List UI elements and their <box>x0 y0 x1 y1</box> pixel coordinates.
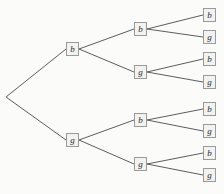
tree-edge-g-to-gg <box>79 140 134 164</box>
root-vertex <box>6 97 7 98</box>
tree-node-label: b <box>207 148 212 157</box>
tree-edge-gg-to-ggg <box>147 164 203 175</box>
tree-edge-gg-to-ggb <box>147 153 203 164</box>
tree-node-bb[interactable]: b <box>134 22 147 36</box>
tree-node-label: b <box>207 10 212 19</box>
tree-edge-bb-to-bbb <box>147 15 203 29</box>
tree-edge-gb-to-gbb <box>147 109 203 120</box>
tree-edge-root-to-g <box>6 97 66 140</box>
tree-edge-g-to-gb <box>79 120 134 140</box>
tree-edge-gb-to-gbg <box>147 120 203 131</box>
tree-node-g[interactable]: g <box>66 133 79 147</box>
tree-node-bbb[interactable]: b <box>203 8 216 22</box>
tree-node-label: g <box>70 135 75 144</box>
tree-node-gb[interactable]: b <box>134 113 147 127</box>
tree-node-label: g <box>207 170 212 179</box>
tree-node-bg[interactable]: g <box>134 65 147 79</box>
tree-node-ggg[interactable]: g <box>203 168 216 182</box>
tree-node-label: g <box>207 126 212 135</box>
tree-node-label: g <box>207 32 212 41</box>
tree-node-label: b <box>70 44 75 53</box>
tree-node-bgb[interactable]: b <box>203 52 216 66</box>
tree-node-bgg[interactable]: g <box>203 75 216 89</box>
tree-edge-bg-to-bgb <box>147 59 203 72</box>
tree-node-gg[interactable]: g <box>134 157 147 171</box>
tree-edges-layer <box>0 0 224 194</box>
tree-edge-root-to-b <box>6 49 66 97</box>
tree-node-label: b <box>207 104 212 113</box>
tree-node-gbb[interactable]: b <box>203 102 216 116</box>
tree-diagram: bgbgbgbgbgbgbg <box>0 0 224 194</box>
tree-node-label: g <box>138 67 143 76</box>
tree-edge-bg-to-bgg <box>147 72 203 82</box>
tree-node-bbg[interactable]: g <box>203 30 216 44</box>
tree-edge-b-to-bb <box>79 29 134 49</box>
tree-node-label: b <box>207 54 212 63</box>
tree-edge-bb-to-bbg <box>147 29 203 37</box>
tree-edge-b-to-bg <box>79 49 134 72</box>
tree-node-label: g <box>207 77 212 86</box>
edge-group <box>6 15 203 175</box>
tree-node-b[interactable]: b <box>66 42 79 56</box>
tree-node-label: b <box>138 115 143 124</box>
tree-node-label: g <box>138 159 143 168</box>
tree-node-ggb[interactable]: b <box>203 146 216 160</box>
tree-node-label: b <box>138 24 143 33</box>
tree-node-gbg[interactable]: g <box>203 124 216 138</box>
